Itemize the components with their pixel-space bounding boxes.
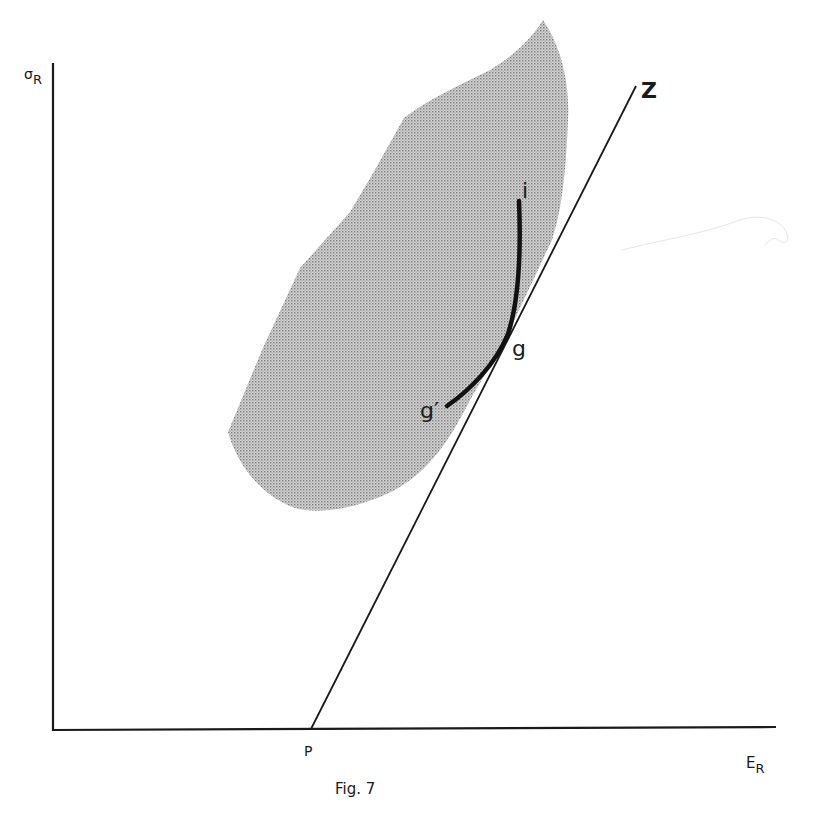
point-p-label: P: [304, 744, 312, 758]
line-z-label: Z: [641, 80, 657, 102]
point-g-label: g: [512, 338, 526, 360]
point-i-label: i: [522, 180, 528, 202]
figure: σR ER P Z i g g′ Fig. 7: [0, 0, 815, 818]
figure-caption: Fig. 7: [335, 782, 375, 797]
y-axis-label: σR: [24, 67, 42, 81]
x-axis: [52, 727, 776, 730]
scan-artifact: [622, 217, 788, 250]
point-g-prime-label: g′: [420, 400, 439, 422]
diagram-canvas: [0, 0, 815, 818]
x-axis-label: ER: [746, 756, 765, 771]
